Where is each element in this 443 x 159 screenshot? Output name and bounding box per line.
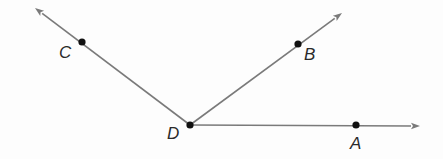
label-C: C [59, 43, 72, 62]
points-group [78, 38, 359, 128]
diagram-canvas: CBAD [0, 0, 443, 159]
rays-group [35, 8, 420, 129]
point-C [78, 38, 85, 45]
arrowhead-icon [411, 123, 420, 129]
ray-DA-line [190, 125, 411, 126]
point-A [352, 121, 359, 128]
ray-DB-line [190, 18, 335, 125]
angle-diagram: CBAD [0, 0, 443, 159]
label-A: A [349, 134, 361, 153]
point-B [294, 40, 301, 47]
ray-DC-line [42, 13, 190, 125]
arrowhead-icon [333, 13, 342, 21]
point-D [186, 121, 193, 128]
label-B: B [304, 45, 315, 64]
label-D: D [167, 124, 179, 143]
